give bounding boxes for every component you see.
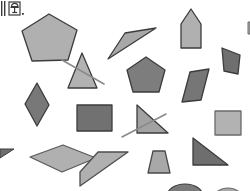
pentagon-house-top-right [181,9,201,48]
fragment-arrow-left-edge [0,149,14,158]
quadrilateral-dark-right [222,48,240,74]
triangle-crossed-left [68,53,97,88]
trapezoid-light-bottom [148,151,170,173]
ellipse-dark-bottom-edge [167,184,203,191]
square-light-right [215,111,241,135]
triangle-dark-bottom-right [193,138,228,165]
rhombus-dark-left [25,83,49,126]
fragment-right-edge-top [248,22,250,34]
parallelogram-dark-right [182,69,209,102]
pentagon-dark-center [127,57,165,92]
triangle-right-top-center [108,28,156,59]
square-dark-center-left [77,105,112,131]
shape-layer [0,0,250,191]
lamp-glyph-icon [0,0,30,18]
triangle-crossed-center [137,105,168,133]
pentagon-light-top-left [22,14,77,61]
shapes-canvas [0,0,250,191]
ellipse-light-bottom-edge [214,188,242,191]
